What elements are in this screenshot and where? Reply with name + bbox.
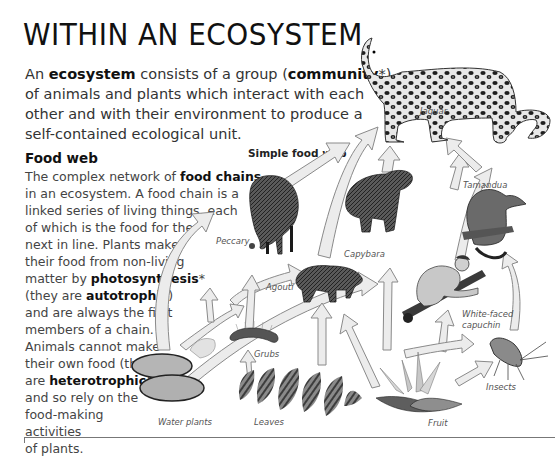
label-grubs: Grubs (254, 349, 279, 359)
label-capuchin: capuchin (462, 320, 500, 330)
leaves-illustration (239, 368, 362, 416)
label-fruit: Fruit (428, 418, 447, 428)
peccary-illustration (249, 176, 298, 254)
label-peccary: Peccary (216, 236, 249, 246)
label-agouti: Agouti (266, 282, 294, 292)
label-leaves: Leaves (254, 417, 284, 427)
label-tamandua: Tamandua (463, 180, 507, 190)
label-insects: Insects (486, 382, 516, 392)
label-jaguar: Jaguar (420, 106, 447, 116)
label-white-faced: White-faced (462, 309, 513, 319)
bottom-divider (24, 437, 555, 438)
insect-illustration (490, 338, 548, 380)
label-water-plants: Water plants (158, 417, 212, 427)
agouti-illustration (296, 266, 362, 302)
label-capybara: Capybara (344, 249, 385, 259)
tamandua-illustration (462, 189, 526, 257)
jaguar-illustration (361, 38, 550, 143)
capybara-illustration (346, 170, 413, 232)
bottom-divider-tick (24, 437, 25, 443)
fruit-illustration (376, 352, 462, 412)
